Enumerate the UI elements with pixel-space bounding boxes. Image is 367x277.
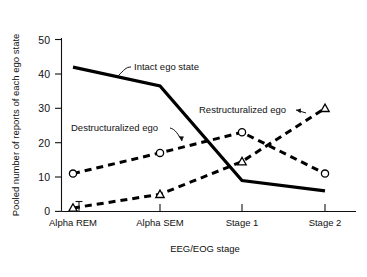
x-category-label-alpha-sem: Alpha SEM <box>136 217 184 228</box>
series-line-destructuralized-ego <box>73 132 325 173</box>
x-category-label-stage-1: Stage 1 <box>226 217 259 228</box>
y-tick-label-30: 30 <box>38 102 50 114</box>
annotation-leader-destructuralized <box>170 128 182 141</box>
line-chart: 50 40 30 20 10 0 Alpha REM Alpha SEM Sta… <box>0 0 367 277</box>
annotation-arrow-restructuralized <box>296 108 301 113</box>
annotation-leader-intact <box>118 67 131 76</box>
chart-figure: 50 40 30 20 10 0 Alpha REM Alpha SEM Sta… <box>0 0 367 277</box>
x-category-label-stage-2: Stage 2 <box>309 217 342 228</box>
y-tick-label-10: 10 <box>38 171 50 183</box>
annotation-intact-ego-state: Intact ego state <box>134 61 199 72</box>
data-point-destructuralized-alpha-sem <box>156 149 163 156</box>
x-axis-title: EEG/EOG stage <box>170 243 240 254</box>
data-point-destructuralized-stage-1 <box>238 129 245 136</box>
y-axis-title: Pooled number of reports of each ego sta… <box>10 34 21 217</box>
y-tick-label-0: 0 <box>44 205 50 217</box>
data-point-restructuralized-stage-2 <box>321 104 329 111</box>
x-category-label-alpha-rem: Alpha REM <box>49 217 97 228</box>
annotation-destructuralized-ego: Destructuralized ego <box>71 122 158 133</box>
y-tick-label-50: 50 <box>38 34 50 46</box>
annotation-restructuralized-ego: Restructuralized ego <box>199 104 286 115</box>
data-point-destructuralized-alpha-rem <box>69 170 76 177</box>
y-tick-label-40: 40 <box>38 68 50 80</box>
y-tick-label-20: 20 <box>38 137 50 149</box>
data-point-destructuralized-stage-2 <box>321 170 328 177</box>
